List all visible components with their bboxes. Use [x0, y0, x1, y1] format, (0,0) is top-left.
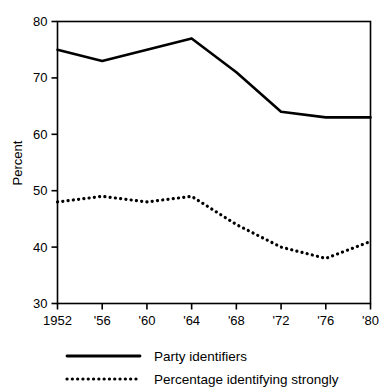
- y-axis-title: Percent: [10, 140, 25, 185]
- x-axis: 1952'56'60'64'68'72'76'80: [43, 304, 379, 328]
- y-tick-label: 80: [33, 14, 47, 29]
- y-tick-label: 60: [33, 127, 47, 142]
- y-axis: 304050607080: [33, 14, 57, 311]
- series-line-1: [58, 196, 371, 258]
- x-tick-label: '76: [317, 313, 334, 328]
- plot-area-border: [58, 22, 371, 304]
- y-tick-label: 70: [33, 70, 47, 85]
- legend-label-0: Party identifiers: [154, 349, 247, 364]
- x-tick-label: '64: [183, 313, 200, 328]
- chart-container: 304050607080 1952'56'60'64'68'72'76'80 P…: [0, 0, 387, 392]
- x-tick-label: '72: [273, 313, 290, 328]
- y-tick-label: 40: [33, 240, 47, 255]
- series-layer: [58, 38, 371, 258]
- line-chart: 304050607080 1952'56'60'64'68'72'76'80 P…: [0, 0, 387, 392]
- legend-label-1: Percentage identifying strongly: [154, 372, 339, 387]
- series-line-0: [58, 38, 371, 117]
- x-tick-label: '68: [228, 313, 245, 328]
- y-tick-label: 50: [33, 183, 47, 198]
- x-tick-label: '60: [138, 313, 155, 328]
- chart-legend: Party identifiersPercentage identifying …: [67, 349, 339, 387]
- y-tick-label: 30: [33, 296, 47, 311]
- x-tick-label: '80: [362, 313, 379, 328]
- x-tick-label: '56: [94, 313, 111, 328]
- x-tick-label: 1952: [43, 313, 72, 328]
